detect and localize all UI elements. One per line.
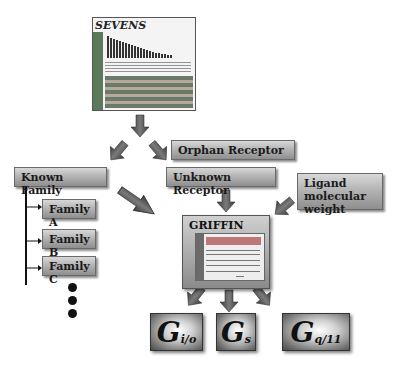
ellipsis-dot (68, 283, 77, 292)
family-a-box: Family A (42, 199, 96, 219)
ellipsis-dot (68, 296, 77, 305)
griffin-box: GRIFFIN (182, 215, 270, 289)
sevens-screenshot: SEVENS (92, 17, 196, 111)
griffin-screenshot (195, 233, 265, 281)
known-family-box: Known Family (14, 167, 107, 187)
subscript: i/o (181, 333, 197, 346)
griffin-title: GRIFFIN (189, 219, 244, 232)
arrow-down (131, 115, 149, 137)
ellipsis-dot (68, 309, 77, 318)
family-c-box: Family C (42, 256, 96, 276)
unknown-receptor-box: Unknown Receptor (166, 167, 276, 187)
subscript: s (245, 333, 251, 346)
output-gs: Gs (216, 313, 256, 351)
screenshot-text-lines (105, 62, 191, 74)
family-b-box: Family B (42, 229, 96, 249)
orphan-receptor-box: Orphan Receptor (171, 140, 295, 160)
screenshot-bar-chart (107, 36, 177, 58)
output-gq11: Gq/11 (282, 313, 350, 351)
screenshot-sidebar (93, 32, 103, 110)
screenshot-table (105, 76, 193, 108)
subscript: q/11 (314, 333, 341, 346)
output-gio: Gi/o (150, 313, 203, 351)
sevens-title: SEVENS (95, 19, 146, 32)
ligand-molecular-weight-box: Ligand molecular weight (297, 173, 383, 210)
